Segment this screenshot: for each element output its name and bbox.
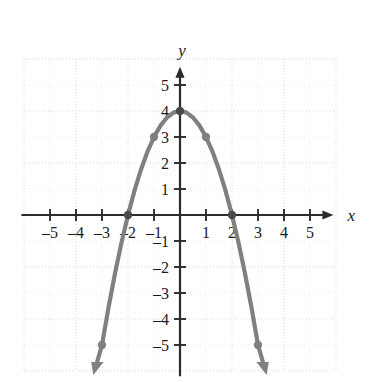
y-tick-label: 3 (161, 129, 169, 146)
data-point-marker (176, 107, 184, 115)
x-tick-label: 1 (202, 224, 210, 241)
y-tick-label: –5 (152, 337, 169, 354)
x-tick-label: 4 (280, 224, 288, 241)
data-point-marker (150, 133, 158, 141)
curve-arrowhead (256, 362, 268, 375)
y-tick-label: 1 (161, 181, 169, 198)
x-tick-label: –4 (67, 224, 84, 241)
data-point-marker (202, 133, 210, 141)
coordinate-plane-svg: –5–4–3–2–11234554321–1–2–3–4–5 xy (0, 0, 386, 382)
y-tick-label: –1 (152, 233, 169, 250)
data-point-marker (124, 211, 132, 219)
x-axis-arrowhead (322, 210, 333, 219)
x-tick-label: –3 (93, 224, 110, 241)
data-point-marker (228, 211, 236, 219)
x-tick-label: –5 (41, 224, 58, 241)
data-point-marker (254, 341, 262, 349)
y-axis-name-label: y (176, 41, 186, 60)
y-tick-label: –2 (152, 259, 169, 276)
x-tick-label: 3 (254, 224, 262, 241)
y-tick-label: –4 (152, 311, 169, 328)
y-tick-label: 5 (161, 77, 169, 94)
x-tick-label: 5 (306, 224, 314, 241)
y-tick-label: –3 (152, 285, 169, 302)
data-point-marker (98, 341, 106, 349)
parabola-graph-figure: –5–4–3–2–11234554321–1–2–3–4–5 xy (0, 0, 386, 382)
y-axis-arrowhead (175, 67, 184, 78)
y-tick-label: 2 (161, 155, 169, 172)
curve-arrowhead (91, 362, 103, 375)
x-axis-name-label: x (346, 206, 355, 225)
